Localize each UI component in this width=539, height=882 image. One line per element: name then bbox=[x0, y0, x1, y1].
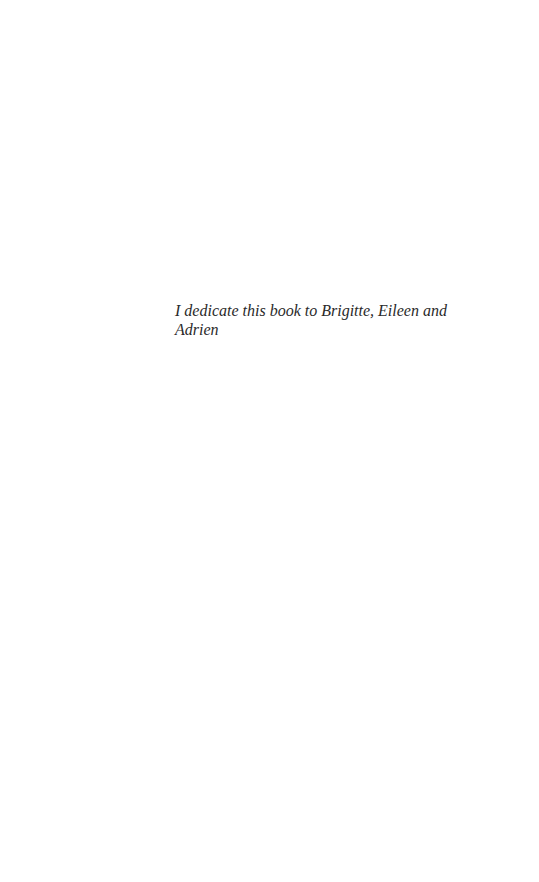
dedication-line-2: Adrien bbox=[175, 321, 219, 338]
dedication-text: I dedicate this book to Brigitte, Eileen… bbox=[175, 301, 465, 339]
book-page: I dedicate this book to Brigitte, Eileen… bbox=[0, 0, 539, 882]
dedication-line-1: I dedicate this book to Brigitte, Eileen… bbox=[175, 302, 447, 319]
